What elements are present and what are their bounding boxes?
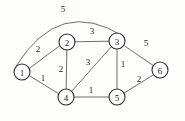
weight-label-4-5: 1 [89,85,94,95]
edge-2-3 [75,41,109,42]
graph-canvas: 5 2 1 3 2 3 1 5 1 2 1 2 3 [0,0,185,121]
edge-1-2 [29,46,59,69]
weight-label-1-2: 2 [36,44,41,54]
node-5[interactable]: 5 [109,89,125,105]
edge-2-4 [66,50,67,89]
weight-label-5-6: 2 [137,74,142,84]
weight-label-2-4: 2 [59,64,64,74]
weight-label-1-3: 5 [61,4,66,14]
node-4-label: 4 [64,93,69,103]
weight-label-3-4: 3 [86,57,91,67]
node-2-label: 2 [65,38,70,48]
node-5-label: 5 [115,93,120,103]
node-3-label: 3 [115,37,120,47]
weight-label-3-6: 5 [144,38,149,48]
node-1[interactable]: 1 [14,64,30,80]
node-4[interactable]: 4 [58,89,74,105]
node-3[interactable]: 3 [109,33,125,49]
weighted-graph-figure: 5 2 1 3 2 3 1 5 1 2 1 2 3 [0,0,185,121]
node-2[interactable]: 2 [59,34,75,50]
weight-label-2-3: 3 [90,26,95,36]
edge-weight-labels: 5 2 1 3 2 3 1 5 1 2 [36,4,149,95]
weight-label-1-4: 1 [41,73,46,83]
weight-label-3-5: 1 [121,59,126,69]
node-1-label: 1 [20,68,25,78]
node-6-label: 6 [158,66,163,76]
edge-3-6 [124,45,154,66]
node-6[interactable]: 6 [152,62,168,78]
